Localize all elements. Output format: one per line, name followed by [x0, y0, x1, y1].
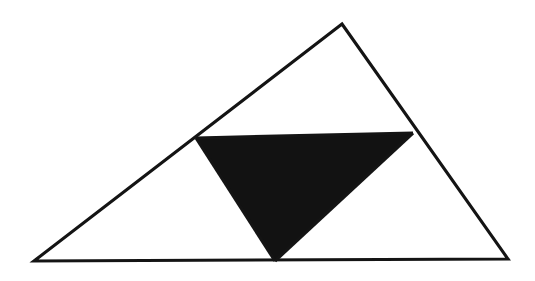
triangle-figure-svg — [0, 0, 535, 281]
figure-canvas — [0, 0, 535, 281]
